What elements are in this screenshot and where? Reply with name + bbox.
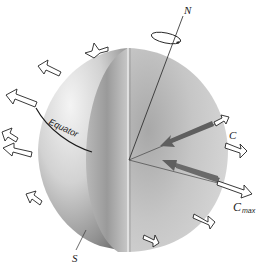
south-label: S [72, 252, 78, 264]
outward-arrow-icon [2, 128, 18, 142]
north-label: N [183, 4, 192, 16]
outward-arrow-icon [3, 143, 32, 157]
c-label: C [229, 129, 237, 141]
outward-arrow-icon [217, 181, 252, 198]
cmax-label: C [233, 200, 242, 214]
sphere-diagram: Equator N S [0, 0, 260, 269]
outward-arrow-icon [26, 191, 42, 205]
outward-arrow-icon [6, 89, 37, 107]
outward-arrow-icon [225, 143, 247, 158]
cmax-subscript: max [242, 207, 256, 214]
outward-arrow-icon [38, 60, 61, 76]
